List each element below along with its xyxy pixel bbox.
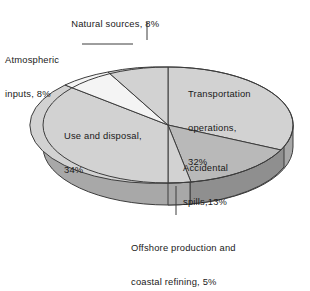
label-use-and-disposal-line1: Use and disposal, (64, 130, 142, 141)
label-atmospheric-inputs-line2: inputs, 8% (5, 88, 59, 99)
label-atmospheric-inputs: Atmospheric inputs, 8% (5, 32, 59, 122)
label-accidental-spills-line1: Accidental (183, 162, 228, 173)
label-offshore-line2: coastal refining, 5% (131, 276, 236, 287)
label-use-and-disposal: Use and disposal, 34% (64, 108, 142, 198)
label-accidental-spills-line2: spills,13% (183, 196, 228, 207)
label-offshore-line1: Offshore production and (131, 242, 236, 253)
label-use-and-disposal-line2: 34% (64, 164, 142, 175)
label-atmospheric-inputs-line1: Atmospheric (5, 54, 59, 65)
label-natural-sources: Natural sources, 8% (60, 7, 159, 41)
label-transportation-line1: Transportation (188, 88, 251, 99)
label-offshore-production: Offshore production and coastal refining… (131, 220, 236, 291)
label-transportation-line2: operations, (188, 122, 251, 133)
label-natural-sources-text: Natural sources, 8% (71, 18, 159, 29)
label-accidental-spills: Accidental spills,13% (183, 140, 228, 230)
